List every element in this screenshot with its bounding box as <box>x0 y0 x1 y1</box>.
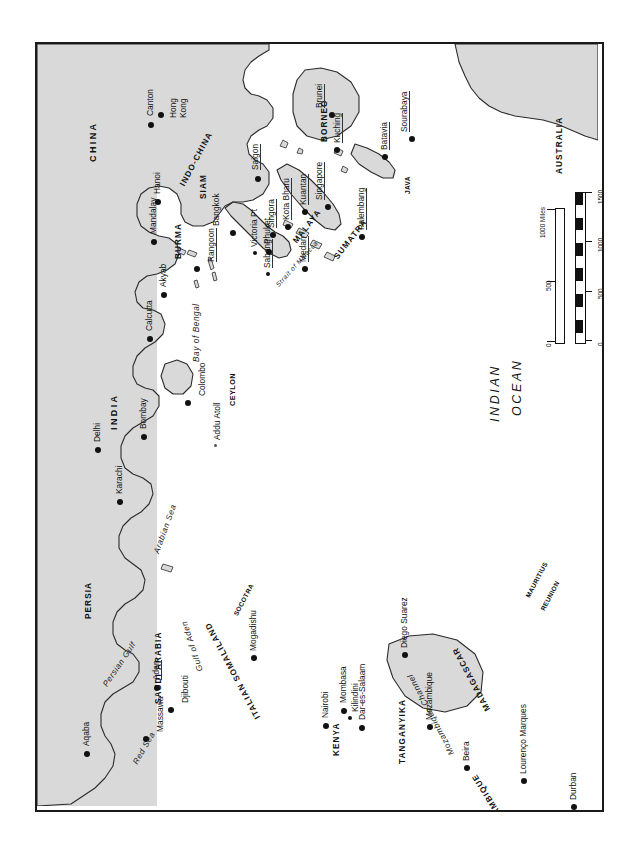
country-label-burma: BURMA <box>175 223 183 259</box>
city-dot-palembang <box>359 234 365 240</box>
city-label-mandalay: Mandalay <box>149 198 157 234</box>
city-dot-aden <box>154 685 160 691</box>
city-dot-delhi <box>95 447 101 453</box>
city-label-sourabaya: Sourabaya <box>400 91 410 132</box>
city-dot-bombay <box>141 434 147 440</box>
city-dot-kuching <box>334 147 340 153</box>
city-label-kota-bharu: Kota Bharu <box>282 178 292 220</box>
city-label-victoria-pt: Victoria Pt <box>250 209 258 247</box>
city-dot-beira <box>464 765 470 771</box>
city-label-calcutta: Calcutta <box>145 300 153 331</box>
city-label-diego-suarez: Diego Suarez <box>400 597 408 648</box>
city-dot-saigon <box>255 176 261 182</box>
city-label-mogadishu: Mogadishu <box>249 610 257 651</box>
city-label-aden: Aden <box>152 660 162 680</box>
city-label-brunei: Brunei <box>315 84 325 108</box>
city-label-mombasa: Mombasa <box>339 666 347 703</box>
city-label-medan: Medan <box>299 236 309 262</box>
city-label-kuching: Kuching <box>333 113 343 143</box>
city-dot-aqaba <box>84 751 90 757</box>
city-label-bombay: Bombay <box>139 398 147 429</box>
city-label-singapore: Singapore <box>315 162 325 200</box>
scale-bar: 0 500 1000 1500 Kms 0 500 1000 Miles <box>535 184 604 359</box>
city-dot-calcutta <box>147 336 153 342</box>
scale-tick-kms-1500: 1500 <box>597 190 604 204</box>
city-label-nairobi: Nairobi <box>321 691 329 718</box>
city-label-phuket: Phuket <box>263 218 271 244</box>
city-label-kuantan: Kuantan <box>299 174 309 205</box>
city-label-massawa: Massawa <box>156 697 164 732</box>
scale-tick-miles-0: 0 <box>545 343 552 347</box>
city-label-rangoon: Rangoon <box>207 228 217 262</box>
country-label-kenya: KENYA <box>333 723 341 756</box>
city-label-dar-es-salaam: Dar-es-Salaam <box>358 664 366 720</box>
map-graphic: .land{fill:#d9d9d9;stroke:#2b2b2b;stroke… <box>37 44 598 806</box>
city-label-djibouti: Djibouti <box>181 675 189 703</box>
sea-label-bay-of-bengal: Bay of Bengal <box>193 303 201 362</box>
country-label-china: CHINA <box>89 122 98 163</box>
city-dot-massawa <box>143 736 149 742</box>
country-label-tanganyika: TANGANYIKA <box>399 699 407 764</box>
city-dot-mogadishu <box>251 655 257 661</box>
city-dot-mozambique-city <box>427 724 433 730</box>
country-label-java: JAVA <box>405 176 412 194</box>
city-dot-durban <box>571 804 577 810</box>
city-label-batavia: Batavia <box>380 122 390 150</box>
country-label-persia: PERSIA <box>85 582 93 619</box>
city-label-karachi: Karachi <box>115 466 123 494</box>
city-label-hanoi: Hanoi <box>153 172 161 194</box>
scale-tick-kms-500: 500 <box>597 288 604 299</box>
scale-bar-miles-track <box>555 208 565 344</box>
city-dot-colombo <box>185 400 191 406</box>
country-label-australia: AUSTRALIA <box>556 117 564 174</box>
city-dot-dar-es-salaam <box>359 725 365 731</box>
city-label-palembang: Palembang <box>357 188 367 230</box>
city-dot-djibouti <box>168 707 174 713</box>
city-label-delhi: Delhi <box>93 423 101 442</box>
map-frame: .land{fill:#d9d9d9;stroke:#2b2b2b;stroke… <box>35 42 604 812</box>
map-page: .land{fill:#d9d9d9;stroke:#2b2b2b;stroke… <box>0 0 634 861</box>
country-label-siam: SIAM <box>200 174 208 199</box>
city-dot-nairobi <box>323 723 329 729</box>
country-label-ceylon: CEYLON <box>229 373 236 406</box>
city-dot-mombasa <box>341 708 347 714</box>
city-label-beira: Beira <box>462 741 470 761</box>
city-dot-singapore <box>325 204 331 210</box>
ocean-label-indian-line2: OCEAN <box>511 359 524 416</box>
city-dot-kota-bharu <box>285 224 291 230</box>
city-label-durban: Durban <box>569 773 577 800</box>
city-dot-addu-atoll <box>214 444 217 447</box>
city-dot-karachi <box>117 499 123 505</box>
scale-unit-miles: 1000 Miles <box>539 207 546 238</box>
city-dot-batavia <box>382 154 388 160</box>
city-label-addu-atoll: Addu Atoll <box>213 402 221 440</box>
scale-tick-kms-0: 0 <box>597 342 604 346</box>
city-dot-medan <box>302 266 308 272</box>
scale-tick-miles-500: 500 <box>545 280 552 291</box>
city-dot-mandalay <box>151 239 157 245</box>
city-label-bangkok: Bangkok <box>212 193 220 226</box>
city-dot-sabang <box>266 272 270 276</box>
city-dot-kuantan <box>302 209 308 215</box>
city-label-lourenco-marques: Lourenço Marques <box>519 704 527 774</box>
city-dot-canton <box>148 122 154 128</box>
ocean-label-indian-line1: INDIAN <box>489 364 502 422</box>
city-dot-akyab <box>161 292 167 298</box>
city-dot-lourenco-marques <box>521 778 527 784</box>
city-dot-bangkok <box>230 230 236 236</box>
city-dot-victoria-pt <box>253 251 257 255</box>
city-dot-kilindini <box>348 716 352 720</box>
city-label-mozambique-city: Mozambique <box>425 672 433 720</box>
country-label-india: INDIA <box>110 394 119 431</box>
city-label-colombo: Colombo <box>198 362 206 396</box>
city-dot-diego-suarez <box>402 652 408 658</box>
scale-tick-kms-1000: 1000 <box>597 238 604 252</box>
city-label-akyab: Akyab <box>159 264 167 287</box>
city-dot-rangoon <box>194 266 200 272</box>
city-dot-sourabaya <box>409 136 415 142</box>
city-dot-hong-kong <box>158 112 164 118</box>
city-label-aqaba: Aqaba <box>82 722 90 746</box>
city-label-canton: Canton <box>146 89 154 116</box>
city-label-hong-kong: Hong Kong <box>168 84 188 118</box>
city-label-saigon: Saigon <box>251 144 261 170</box>
